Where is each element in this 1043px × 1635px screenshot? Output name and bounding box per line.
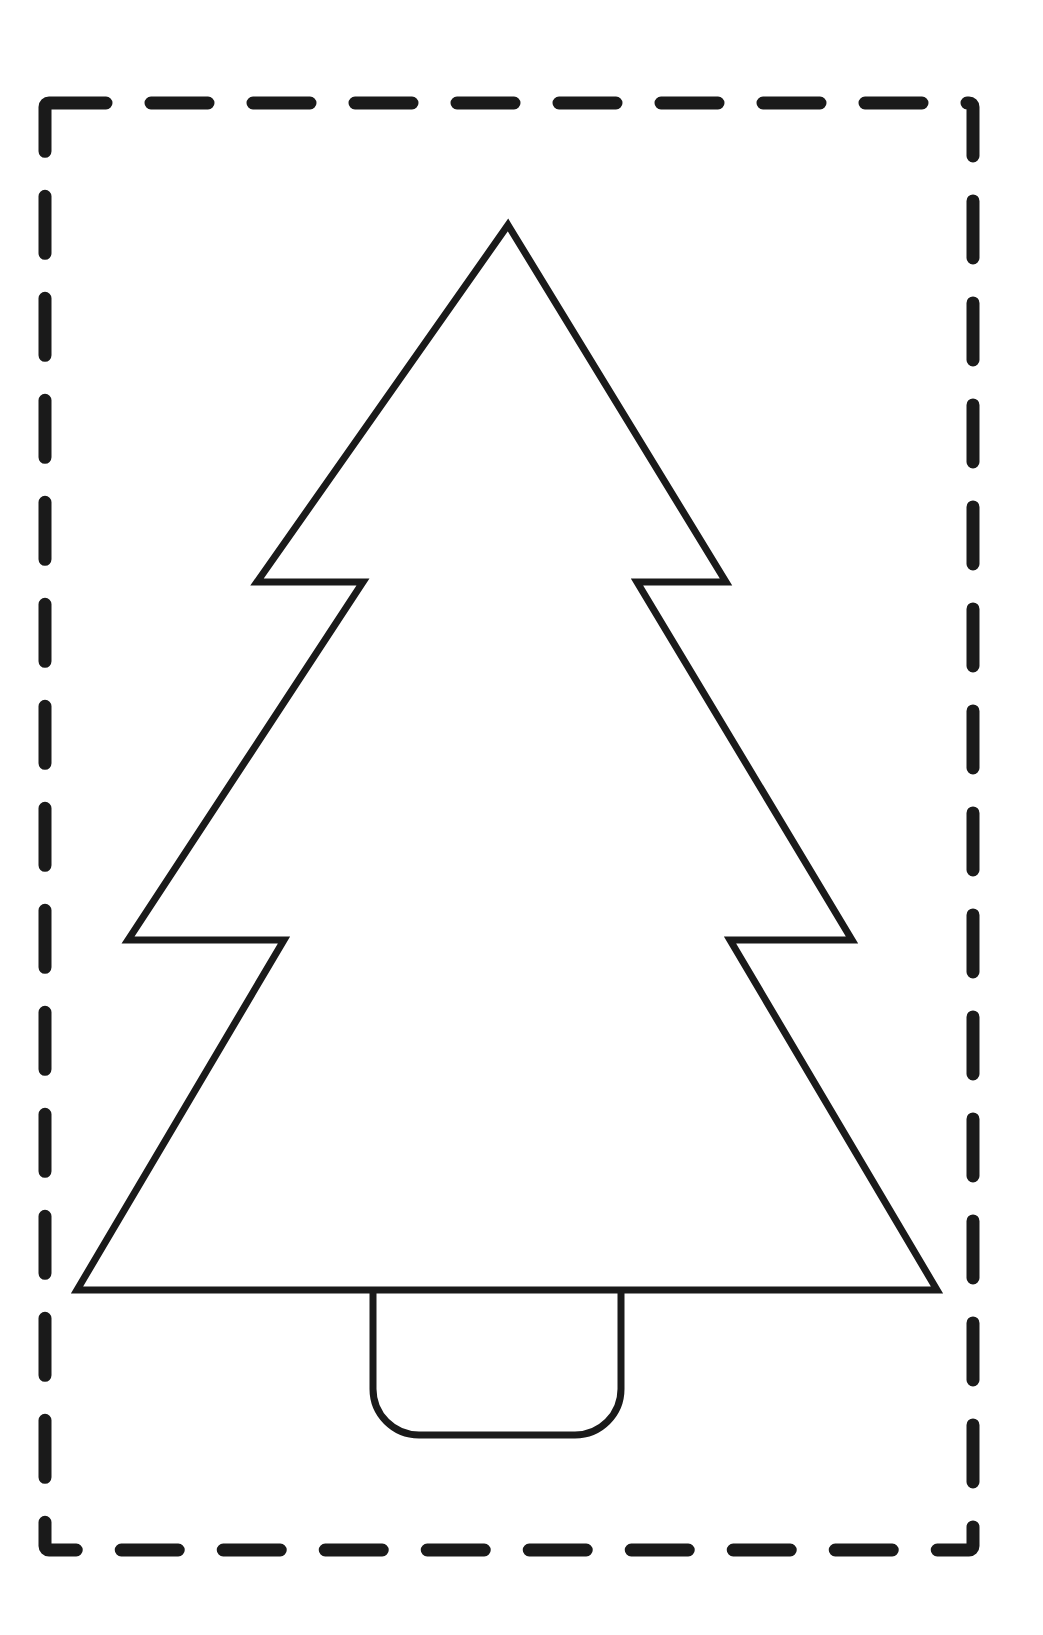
tree-trunk [373, 1276, 621, 1435]
tree-cutout-illustration [0, 0, 1043, 1635]
worksheet-page [0, 0, 1043, 1635]
